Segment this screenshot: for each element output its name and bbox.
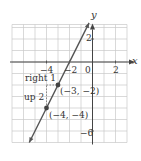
coordinate-plane (0, 0, 141, 161)
run-annotation: right 1 (25, 74, 56, 83)
tick-label-origin: 0 (85, 66, 91, 75)
rise-annotation: up 2 (24, 93, 44, 102)
axes (10, 24, 135, 145)
tick-label-x-neg2: −2 (64, 66, 77, 75)
x-axis-label: x (132, 56, 138, 66)
tick-label-y-2: 2 (86, 34, 92, 43)
tick-label-y-neg6: −6 (80, 129, 93, 138)
tick-label-x-2: 2 (113, 66, 119, 75)
grid-lines (12, 25, 127, 143)
point-label-neg4-neg4: (−4, −4) (49, 111, 88, 120)
point-label-neg3-neg2: (−3, −2) (60, 87, 99, 96)
y-axis-label: y (91, 10, 97, 20)
